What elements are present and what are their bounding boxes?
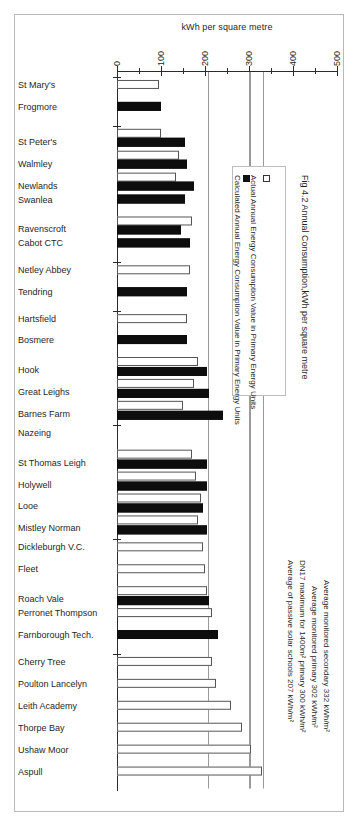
bar-row xyxy=(117,744,337,753)
bar-calculated xyxy=(117,102,161,111)
category-label: Ravenscroft xyxy=(18,224,113,234)
bar-calculated xyxy=(117,367,207,376)
legend-swatch-calculated xyxy=(243,175,250,182)
x-axis: 0100200300400500 xyxy=(0,0,360,80)
category-label: Fleet xyxy=(18,564,113,574)
bar-actual xyxy=(117,608,212,617)
category-label: Hook xyxy=(18,365,113,375)
bar-row xyxy=(117,516,337,535)
category-label: Dickleburgh V.C. xyxy=(18,542,113,552)
annotation-dn17-max: DN17 maximum for 1400m² primary 300 kWh/… xyxy=(298,560,307,732)
category-label: Looe xyxy=(18,502,113,512)
bar-row xyxy=(117,80,337,89)
group-separator-tick xyxy=(113,654,121,655)
category-label: Roach Vale xyxy=(18,594,113,604)
bar-calculated xyxy=(117,503,203,512)
category-label: Nazeing xyxy=(18,428,113,438)
category-label: Frogmore xyxy=(18,102,113,112)
bar-actual xyxy=(117,586,207,595)
bar-calculated xyxy=(117,459,207,468)
x-tick-500 xyxy=(337,66,338,76)
bar-row xyxy=(117,766,337,775)
legend: Actual Annual Energy Consumption Value i… xyxy=(232,166,286,396)
category-label: Cherry Tree xyxy=(18,657,113,667)
bar-calculated xyxy=(117,287,187,296)
bar-row xyxy=(117,379,337,398)
annotation-avg-primary: Average monitored primary 302 kWh/m² xyxy=(310,586,319,728)
bar-actual xyxy=(117,722,242,731)
category-label: Hartsfield xyxy=(18,314,113,324)
bar-actual xyxy=(117,314,187,323)
x-tick-label-500: 500 xyxy=(332,51,342,66)
bar-row xyxy=(117,450,337,469)
annotation-avg-secondary: Average monitored secondary 332 kWh/m² xyxy=(322,580,331,732)
x-tick-label-400: 400 xyxy=(288,51,298,66)
bar-actual xyxy=(117,744,251,753)
category-label: Netley Abbey xyxy=(18,265,113,275)
category-label: Aspull xyxy=(18,766,113,776)
bar-row xyxy=(117,151,337,170)
legend-label-actual: Actual Annual Energy Consumption Value i… xyxy=(249,175,258,409)
category-label: St Mary's xyxy=(18,80,113,90)
bar-calculated xyxy=(117,596,209,605)
bar-actual xyxy=(117,216,192,225)
x-tick-label-100: 100 xyxy=(156,51,166,66)
category-label: Farnborough Tech. xyxy=(18,630,113,640)
bar-row xyxy=(117,102,337,111)
category-label: Bosmere xyxy=(18,336,113,346)
bar-row xyxy=(117,428,337,437)
category-labels: St Mary'sFrogmoreSt Peter'sWalmleyNewlan… xyxy=(18,72,115,788)
group-separator-tick xyxy=(113,262,121,263)
bar-actual xyxy=(117,766,262,775)
bar-calculated xyxy=(117,226,181,235)
bar-calculated xyxy=(117,336,187,345)
group-separator-tick xyxy=(113,425,121,426)
x-tick-label-300: 300 xyxy=(244,51,254,66)
bar-actual xyxy=(117,472,196,481)
category-label: Mistley Norman xyxy=(18,523,113,533)
category-label: Cabot CTC xyxy=(18,238,113,248)
figure-page: kWh per square metre 0100200300400500 St… xyxy=(0,0,360,828)
bar-row xyxy=(117,129,337,148)
bar-actual xyxy=(117,265,190,274)
bar-calculated xyxy=(117,238,190,247)
bar-actual xyxy=(117,657,212,666)
category-label: Ushaw Moor xyxy=(18,744,113,754)
bar-actual xyxy=(117,172,176,181)
bar-calculated xyxy=(117,194,185,203)
bar-actual xyxy=(117,494,201,503)
bar-actual xyxy=(117,450,192,459)
bar-calculated xyxy=(117,525,207,534)
category-label: Leith Academy xyxy=(18,700,113,710)
legend-swatch-actual xyxy=(263,175,270,182)
bar-actual xyxy=(117,379,194,388)
category-label: Swanlea xyxy=(18,194,113,204)
bar-row xyxy=(117,472,337,491)
group-separator-tick xyxy=(113,126,121,127)
bar-actual xyxy=(117,80,159,89)
bar-calculated xyxy=(117,411,223,420)
category-label: Great Leighs xyxy=(18,387,113,397)
group-separator-tick xyxy=(113,539,121,540)
bar-calculated xyxy=(117,630,218,639)
category-label: Newlands xyxy=(18,180,113,190)
figure-title: Fig 4.2 Annual Consumption,kWh per squar… xyxy=(300,175,310,380)
category-label: Perronet Thompson xyxy=(18,608,113,618)
category-label: Barnes Farm xyxy=(18,409,113,419)
category-label: St Peter's xyxy=(18,137,113,147)
bar-actual xyxy=(117,357,198,366)
group-separator-tick xyxy=(113,77,121,78)
bar-actual xyxy=(117,564,205,573)
bar-calculated xyxy=(117,160,187,169)
category-label: Walmley xyxy=(18,159,113,169)
bar-calculated xyxy=(117,182,194,191)
category-label: Poulton Lancelyn xyxy=(18,679,113,689)
bar-actual xyxy=(117,700,231,709)
bar-actual xyxy=(117,516,198,525)
category-label: Tendring xyxy=(18,287,113,297)
category-label: St Thomas Leigh xyxy=(18,458,113,468)
bar-calculated xyxy=(117,389,209,398)
annotation-passive-solar: Average of passive solar schools 207 kWh… xyxy=(286,560,295,722)
group-separator-tick xyxy=(113,311,121,312)
bar-actual xyxy=(117,151,179,160)
